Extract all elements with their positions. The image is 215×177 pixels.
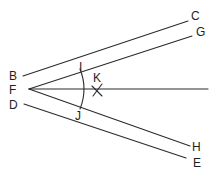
- label-e: E: [193, 156, 201, 170]
- label-d: D: [9, 98, 18, 112]
- angle-bisection-diagram: C G B F D I K J H E: [0, 0, 215, 177]
- label-k: K: [93, 71, 101, 85]
- label-j: J: [75, 109, 81, 123]
- cross-mark-k: [92, 84, 102, 96]
- label-f: F: [9, 83, 16, 97]
- label-h: H: [192, 140, 201, 154]
- line-b-c: [23, 21, 188, 76]
- label-g: G: [196, 25, 205, 39]
- label-b: B: [9, 69, 17, 83]
- label-c: C: [191, 9, 200, 23]
- line-d-e: [24, 104, 186, 158]
- line-f-g: [29, 36, 192, 89]
- label-i: I: [79, 60, 82, 74]
- diagram-canvas: C G B F D I K J H E: [0, 0, 215, 177]
- line-f-h: [29, 89, 190, 146]
